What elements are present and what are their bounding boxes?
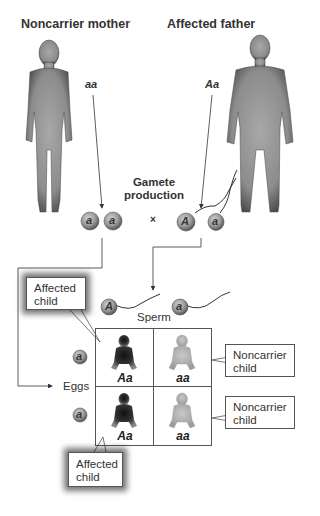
sperm-row-allele-a: a <box>176 300 182 312</box>
mother-label: Noncarrier mother <box>21 17 130 31</box>
sperm-allele-a: a <box>212 215 218 227</box>
callout-affected-bottom: Affected child <box>68 452 123 487</box>
eggs-label: Eggs <box>63 380 89 392</box>
callout-affected-top: Affected child <box>26 277 86 310</box>
sperm-allele-A: A <box>181 215 189 227</box>
callout-noncarrier-top: Noncarrier child <box>225 344 295 377</box>
cell-genotype-r2c2: aa <box>154 429 212 443</box>
sperm-label: Sperm <box>137 311 171 323</box>
mother-figure <box>26 40 72 212</box>
cell-genotype-r1c2: aa <box>154 371 212 385</box>
cell-genotype-r1c1: Aa <box>96 371 154 385</box>
sperm-row-allele-A: A <box>105 300 113 312</box>
gamete-production-label: Gamete production <box>118 176 190 202</box>
callout-noncarrier-bottom: Noncarrier child <box>225 396 295 429</box>
father-genotype: Aa <box>205 78 219 90</box>
mother-genotype: aa <box>85 78 97 90</box>
father-label: Affected father <box>167 17 255 31</box>
egg-col-allele-1: a <box>76 350 82 362</box>
egg-allele-1: a <box>86 214 92 226</box>
father-figure <box>227 35 293 212</box>
cross-symbol: × <box>150 214 156 225</box>
grid-divider-vertical <box>153 329 154 445</box>
punnett-square: Aa aa Aa aa <box>95 328 212 446</box>
grid-divider-horizontal <box>96 386 211 387</box>
egg-allele-2: a <box>109 214 115 226</box>
egg-col-allele-2: a <box>76 408 82 420</box>
cell-genotype-r2c1: Aa <box>96 429 154 443</box>
